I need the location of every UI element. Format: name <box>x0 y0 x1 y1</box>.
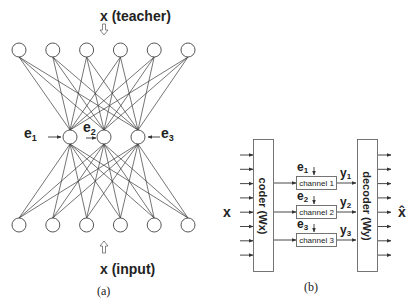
output-node <box>147 43 161 57</box>
output-node <box>80 43 94 57</box>
error-label-e1: e1 <box>24 125 61 143</box>
decoder-label: decoder (Wy) <box>361 171 373 241</box>
input-node <box>113 218 127 232</box>
teacher-arrow-icon <box>100 24 108 35</box>
hidden-layer-nodes <box>63 130 145 144</box>
input-x-label: x <box>223 204 231 220</box>
output-layer-nodes <box>12 43 195 57</box>
y1-label: y1 <box>340 166 352 181</box>
hidden-node <box>63 130 77 144</box>
connection-edge <box>104 144 188 218</box>
caption-b: (b) <box>304 280 318 294</box>
input-node <box>46 218 60 232</box>
connection-edge <box>70 144 188 218</box>
connection-edge <box>104 57 188 130</box>
svg-text:e1: e1 <box>24 125 37 143</box>
teacher-label: x (teacher) <box>100 8 171 24</box>
y3-label: y3 <box>340 223 352 238</box>
connection-edge <box>70 144 154 218</box>
channel-3-label: channel 3 <box>299 236 334 245</box>
input-layer-nodes <box>12 218 195 232</box>
figure: x (teacher) e1 e2 e3 x (inpu <box>0 0 415 300</box>
input-arrow-icon <box>100 241 108 253</box>
connection-edge <box>53 57 70 130</box>
connection-edge <box>70 57 120 130</box>
decoder-output-arrows <box>378 155 391 255</box>
coder-input-arrows <box>240 155 253 255</box>
channel-3: channel 3 e3 y3 <box>274 217 356 247</box>
output-node <box>12 43 26 57</box>
input-node <box>80 218 94 232</box>
input-label: x (input) <box>100 261 155 277</box>
output-node <box>181 43 195 57</box>
hidden-node <box>131 130 145 144</box>
channel-1: channel 1 e1 y1 <box>274 160 356 190</box>
coder-label: coder (Wx) <box>257 178 269 235</box>
input-node <box>181 218 195 232</box>
svg-text:e3: e3 <box>161 125 174 143</box>
connection-edge <box>70 144 87 218</box>
input-node <box>12 218 26 232</box>
output-node <box>46 43 60 57</box>
channel-2: channel 2 e2 y2 <box>274 189 356 219</box>
connection-edge <box>53 144 70 218</box>
channel-1-label: channel 1 <box>299 179 334 188</box>
channel-2-label: channel 2 <box>299 208 334 217</box>
hidden-node <box>97 130 111 144</box>
caption-a: (a) <box>97 284 110 298</box>
connection-edge <box>19 57 70 130</box>
channel-2-error-label: e2 <box>297 189 309 204</box>
edges-hidden-to-bottom <box>19 144 188 218</box>
channel-3-error-label: e3 <box>297 217 309 232</box>
edges-top-to-hidden <box>19 57 188 130</box>
connection-edge <box>70 144 120 218</box>
y2-label: y2 <box>340 195 352 210</box>
input-node <box>147 218 161 232</box>
panel-a-autoencoder-network: x (teacher) e1 e2 e3 x (inpu <box>12 8 195 298</box>
output-node <box>113 43 127 57</box>
connection-edge <box>19 144 70 218</box>
output-x-hat-label: x̂ <box>398 204 406 220</box>
error-label-e3: e3 <box>148 125 174 143</box>
panel-b-coder-channel-decoder: x coder (Wx) channel 1 e1 y1 channel 2 e <box>223 140 406 295</box>
channel-1-error-label: e1 <box>297 160 309 175</box>
